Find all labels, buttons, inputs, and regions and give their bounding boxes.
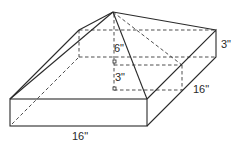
- prism-top-left-edge: [10, 30, 79, 99]
- prism-pyramid-diagram: 6" 3" 3" 16" 16": [0, 0, 239, 146]
- right-face: [147, 30, 216, 126]
- label-side-prism-height: 3": [221, 38, 231, 50]
- pyramid-edge-back-right: [113, 12, 216, 30]
- right-angle-marker-bottom: [113, 87, 116, 90]
- label-inner-prism-height: 3": [115, 71, 125, 83]
- pyramid-edge-back-left: [79, 12, 113, 30]
- label-pyramid-height: 6": [114, 42, 124, 54]
- hidden-edges: [12, 12, 216, 124]
- label-depth: 16": [193, 83, 209, 95]
- right-angle-marker-top: [113, 60, 116, 63]
- left-bottom-diagonal-hidden: [12, 57, 79, 124]
- front-face: [10, 99, 147, 126]
- label-width: 16": [72, 130, 88, 142]
- visible-edges: [10, 12, 216, 126]
- pyramid-edge-front-left: [10, 12, 113, 99]
